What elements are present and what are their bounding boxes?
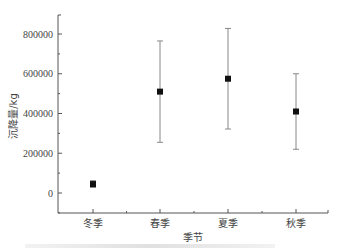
data-point-group [293, 74, 299, 150]
figure-caption-cutoff [25, 244, 275, 248]
data-point-group [225, 28, 231, 129]
data-points [90, 28, 299, 187]
x-category-label: 春季 [150, 218, 170, 229]
square-marker [225, 76, 231, 82]
x-category-label: 秋季 [286, 217, 306, 229]
y-tick-label: 600000 [23, 68, 53, 79]
y-axis-title: 沉降量/kg [7, 93, 19, 139]
x-category-label: 夏季 [218, 218, 238, 229]
data-point-group [157, 41, 163, 142]
y-tick-label: 0 [48, 188, 53, 199]
x-axis-ticks: 冬季春季夏季秋季 [83, 209, 306, 229]
x-axis-title: 季节 [183, 232, 203, 243]
data-point-group [90, 181, 96, 188]
y-tick-label: 200000 [23, 148, 53, 159]
y-axis-ticks: 0200000400000600000800000 [23, 29, 62, 213]
y-tick-label: 400000 [23, 108, 53, 119]
y-tick-label: 800000 [23, 29, 53, 40]
square-marker [293, 109, 299, 115]
season-sediment-chart: 0200000400000600000800000 冬季春季夏季秋季 沉降量/k… [0, 0, 340, 250]
square-marker [157, 89, 163, 95]
axes [58, 15, 328, 213]
square-marker [90, 181, 96, 187]
x-category-label: 冬季 [83, 217, 103, 229]
